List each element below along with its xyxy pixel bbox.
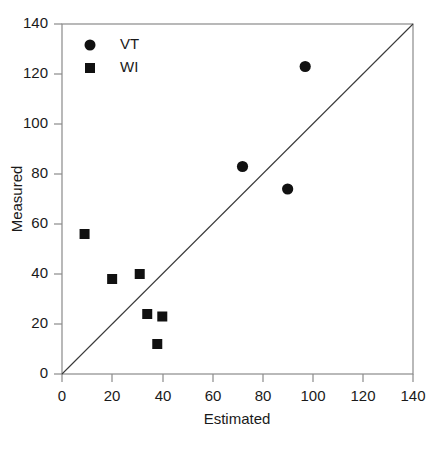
data-point-vt [300,61,311,72]
data-points-layer [80,61,311,349]
x-tick-label-80: 80 [255,387,272,404]
series-vt [237,61,311,195]
y-tick-label-80: 80 [31,164,48,181]
series-wi [80,229,168,349]
x-tick-label-40: 40 [155,387,172,404]
data-point-vt [282,183,293,194]
chart-canvas: 0 20 40 60 80 100 120 140 0 20 40 60 80 … [0,0,440,450]
legend-label-wi: WI [120,58,138,75]
x-tick-label-100: 100 [300,387,325,404]
x-axis-title: Estimated [204,410,271,427]
y-tick-label-100: 100 [23,114,48,131]
y-axis-title: Measured [8,166,25,233]
data-point-wi [152,339,162,349]
x-tick-label-0: 0 [58,387,66,404]
data-point-wi [80,229,90,239]
legend-marker-square-wi [85,63,95,73]
x-tick-label-60: 60 [205,387,222,404]
y-tick-label-0: 0 [40,364,48,381]
x-tick-label-120: 120 [350,387,375,404]
x-axis: 0 20 40 60 80 100 120 140 [58,374,426,404]
y-tick-label-60: 60 [31,214,48,231]
y-tick-label-120: 120 [23,64,48,81]
legend-label-vt: VT [120,35,139,52]
data-point-wi [157,312,167,322]
data-point-wi [107,274,117,284]
page-bleed-text [0,426,440,450]
y-tick-label-20: 20 [31,314,48,331]
data-point-wi [135,269,145,279]
legend-marker-circle-vt [85,40,96,51]
data-point-vt [237,161,248,172]
y-tick-label-140: 140 [23,14,48,31]
chart-legend: VT WI [85,35,140,75]
one-to-one-reference-line [62,24,413,374]
y-axis: 0 20 40 60 80 100 120 140 [23,14,62,381]
x-tick-label-140: 140 [400,387,425,404]
x-tick-label-20: 20 [104,387,121,404]
data-point-wi [142,309,152,319]
y-tick-label-40: 40 [31,264,48,281]
scatter-plot-figure: 0 20 40 60 80 100 120 140 0 20 40 60 80 … [0,0,440,450]
